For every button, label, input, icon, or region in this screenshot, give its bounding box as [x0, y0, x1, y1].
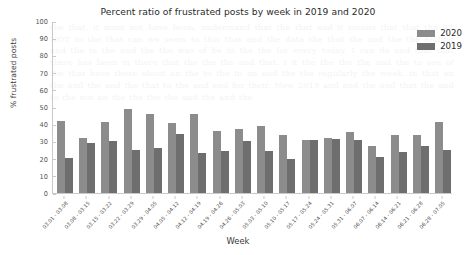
bar-2020 [57, 121, 65, 193]
bar-group [235, 22, 251, 193]
y-axis-label: % frustrated posts [9, 38, 18, 108]
bar-2019 [87, 143, 95, 193]
bar-group [168, 22, 184, 193]
bar-2020 [146, 114, 154, 193]
y-axis-tick-label: 30 [40, 138, 53, 146]
bar-2020 [391, 135, 399, 193]
bar-group [257, 22, 273, 193]
y-axis-tick-label: 10 [40, 173, 53, 181]
bar-2020 [368, 146, 376, 193]
legend-entry-2020[interactable]: 2020 [417, 28, 462, 38]
bar-group [79, 22, 95, 193]
legend-entry-2019[interactable]: 2019 [417, 41, 462, 51]
x-axis-tick: 03.22 - 03.29 [130, 196, 131, 199]
x-axis-tick-mark [419, 196, 420, 199]
y-axis-tick-label: 90 [40, 35, 53, 43]
y-axis-tick-label: 50 [40, 104, 53, 112]
x-axis-tick: 05.10 - 05.17 [286, 196, 287, 199]
y-axis-tick-label: 40 [40, 121, 53, 129]
x-axis-tick: 03.08 - 03.15 [86, 196, 87, 199]
x-axis-tick-mark [64, 196, 65, 199]
bar-2020 [124, 109, 132, 193]
x-axis-tick-mark [308, 196, 309, 199]
bar-group [190, 22, 206, 193]
x-axis-tick: 06.21 - 06.28 [419, 196, 420, 199]
x-axis-tick-mark [441, 196, 442, 199]
bar-2020 [324, 138, 332, 193]
bar-group [124, 22, 140, 193]
x-axis-tick: 04.26 - 05.03 [241, 196, 242, 199]
y-axis-tick-label: 80 [40, 52, 53, 60]
x-axis-tick-mark [130, 196, 131, 199]
bar-group [324, 22, 340, 193]
bar-2019 [176, 134, 184, 193]
bar-group [57, 22, 73, 193]
bar-2019 [198, 153, 206, 193]
bar-2019 [287, 159, 295, 193]
bar-2019 [399, 152, 407, 193]
x-axis-tick-mark [397, 196, 398, 199]
bar-group [368, 22, 384, 193]
bar-2019 [421, 146, 429, 193]
x-axis-tick: 04.05 - 04.12 [175, 196, 176, 199]
bar-2020 [435, 122, 443, 193]
x-axis-tick-mark [375, 196, 376, 199]
x-axis-tick: 05.31 - 06.07 [353, 196, 354, 199]
bar-2019 [332, 139, 340, 193]
legend-label: 2020 [440, 28, 462, 38]
bar-group [302, 22, 318, 193]
x-axis-tick: 05.17 - 05.24 [308, 196, 309, 199]
bar-group [146, 22, 162, 193]
bar-2019 [109, 141, 117, 193]
bar-2020 [257, 126, 265, 193]
y-axis-tick-mark [53, 194, 56, 195]
x-axis-tick-mark [286, 196, 287, 199]
legend-swatch-icon [417, 43, 435, 50]
x-axis-tick-mark [108, 196, 109, 199]
x-axis-tick-mark [197, 196, 198, 199]
x-axis-ticks: 03.01 - 03.0803.08 - 03.1503.15 - 03.220… [52, 196, 452, 238]
x-axis-tick: 06.14 - 06.21 [397, 196, 398, 199]
y-axis-tick-label: 70 [40, 70, 53, 78]
bar-2019 [265, 151, 273, 193]
x-axis-tick-mark [219, 196, 220, 199]
x-axis-tick: 03.01 - 03.08 [64, 196, 65, 199]
bar-group [279, 22, 295, 193]
x-axis-tick: 05.24 - 05.31 [330, 196, 331, 199]
x-axis-tick-mark [353, 196, 354, 199]
legend-label: 2019 [440, 41, 462, 51]
bar-2020 [235, 129, 243, 194]
bar-group [101, 22, 117, 193]
x-axis-tick: 06.28 - 07.05 [441, 196, 442, 199]
bar-2019 [443, 150, 451, 193]
bar-2019 [132, 150, 140, 193]
bar-2020 [302, 140, 310, 193]
bar-2019 [65, 158, 73, 193]
y-axis-tick-label: 60 [40, 87, 53, 95]
x-axis-tick-mark [86, 196, 87, 199]
bar-groups [54, 22, 452, 193]
bar-group [391, 22, 407, 193]
x-axis-tick: 04.12 - 04.19 [197, 196, 198, 199]
bar-2019 [243, 141, 251, 193]
bar-2020 [168, 123, 176, 193]
bar-2020 [190, 114, 198, 193]
x-axis-tick: 06.07 - 06.14 [375, 196, 376, 199]
x-axis-tick: 03.15 - 03.22 [108, 196, 109, 199]
bar-group [346, 22, 362, 193]
y-axis-tick-label: 100 [35, 18, 53, 26]
chart-title: Percent ratio of frustrated posts by wee… [0, 6, 476, 17]
bar-2020 [346, 132, 354, 193]
x-axis-tick-mark [175, 196, 176, 199]
bar-2020 [101, 122, 109, 193]
x-axis-tick-mark [241, 196, 242, 199]
bar-2019 [376, 157, 384, 193]
chart-legend: 20202019 [417, 28, 462, 51]
bar-2020 [413, 135, 421, 193]
bar-2019 [310, 140, 318, 193]
bar-2019 [221, 151, 229, 193]
plot-area: 0102030405060708090100 [52, 22, 452, 194]
bar-2020 [279, 135, 287, 193]
legend-swatch-icon [417, 30, 435, 37]
chart-figure: Percent ratio of frustrated posts by wee… [0, 0, 476, 255]
